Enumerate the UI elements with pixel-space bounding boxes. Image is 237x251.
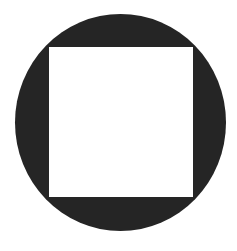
white-square	[49, 47, 193, 197]
